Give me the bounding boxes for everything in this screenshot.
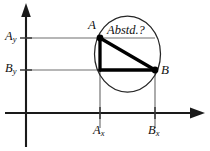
point-a-marker — [97, 35, 104, 42]
geometry-diagram: A B Abstd.? Ay By Ax Bx — [0, 0, 210, 151]
axis-label-by-sub: y — [13, 66, 17, 76]
point-a-label: A — [88, 18, 96, 31]
axis-label-ay-sub: y — [13, 34, 17, 44]
axis-label-bx-base: B — [148, 123, 156, 137]
axis-label-ay: Ay — [5, 30, 16, 44]
axis-label-bx-sub: x — [156, 128, 160, 138]
point-b-marker — [152, 67, 159, 74]
axis-label-ax: Ax — [93, 124, 104, 138]
vertical-axis-arrowhead — [21, 3, 31, 17]
axis-label-ay-base: A — [5, 29, 13, 43]
axis-label-by-base: B — [5, 61, 13, 75]
axis-label-ax-base: A — [93, 123, 101, 137]
point-b-label: B — [161, 63, 169, 76]
axis-label-ax-sub: x — [101, 128, 105, 138]
axis-label-by: By — [5, 62, 16, 76]
diagram-canvas — [0, 0, 210, 151]
axis-label-bx: Bx — [148, 124, 159, 138]
horizontal-axis-arrowhead — [190, 108, 205, 119]
distance-annotation: Abstd.? — [107, 24, 145, 37]
triangle-hypotenuse — [100, 38, 155, 70]
